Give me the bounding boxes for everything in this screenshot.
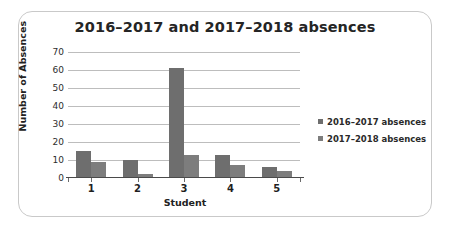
legend-label: 2017–2018 absences xyxy=(327,134,426,144)
x-tick-label: 4 xyxy=(215,183,245,194)
x-tick xyxy=(91,178,92,182)
legend-label: 2016–2017 absences xyxy=(327,117,426,127)
bar xyxy=(169,68,184,178)
gridline xyxy=(68,88,300,89)
chart-title: 2016–2017 and 2017–2018 absences xyxy=(18,19,432,35)
x-axis-tick-labels: 12345 xyxy=(66,183,304,197)
x-tick xyxy=(300,178,301,182)
y-tick-label: 50 xyxy=(42,83,64,93)
x-tick-label: 5 xyxy=(262,183,292,194)
y-axis-title: Number of Absences xyxy=(17,36,28,132)
y-tick-label: 60 xyxy=(42,65,64,75)
bar xyxy=(91,162,106,178)
gridline xyxy=(68,142,300,143)
chart-legend: 2016–2017 absences2017–2018 absences xyxy=(318,113,438,147)
y-tick-label: 70 xyxy=(42,47,64,57)
bar xyxy=(184,155,199,178)
x-axis-title: Student xyxy=(66,197,304,208)
legend-swatch-icon xyxy=(318,136,323,141)
y-tick-label: 10 xyxy=(42,155,64,165)
y-axis-tick-labels: 706050403020100 xyxy=(40,52,64,178)
y-tick-label: 20 xyxy=(42,137,64,147)
x-tick-label: 1 xyxy=(76,183,106,194)
y-tick-label: 40 xyxy=(42,101,64,111)
bar xyxy=(215,155,230,178)
legend-item: 2017–2018 absences xyxy=(318,130,438,147)
x-tick xyxy=(184,178,185,182)
y-tick-label: 0 xyxy=(42,173,64,183)
legend-item: 2016–2017 absences xyxy=(318,113,438,130)
x-axis-line xyxy=(66,177,304,178)
x-tick xyxy=(277,178,278,182)
gridline xyxy=(68,70,300,71)
x-tick xyxy=(230,178,231,182)
plot-area xyxy=(68,52,300,178)
gridline xyxy=(68,52,300,53)
bar xyxy=(123,160,138,178)
gridline xyxy=(68,106,300,107)
y-tick-label: 30 xyxy=(42,119,64,129)
gridline xyxy=(68,124,300,125)
x-tick xyxy=(68,178,69,182)
legend-swatch-icon xyxy=(318,119,323,124)
x-tick-label: 3 xyxy=(169,183,199,194)
bar xyxy=(76,151,91,178)
chart-figure: 2016–2017 and 2017–2018 absences Number … xyxy=(0,0,449,239)
x-tick-label: 2 xyxy=(123,183,153,194)
x-tick xyxy=(138,178,139,182)
